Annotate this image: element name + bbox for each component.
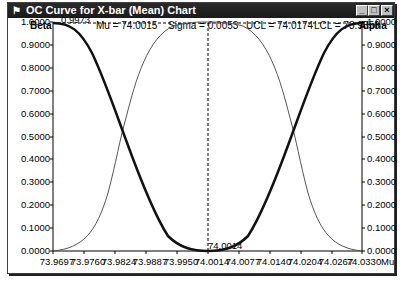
- window-title: OC Curve for X-bar (Mean) Chart: [26, 3, 196, 18]
- maximize-button[interactable]: □: [368, 5, 380, 16]
- chart-area: Beta Mu = 74.0015 Sigma = 0.0053 UCL = 7…: [8, 18, 394, 273]
- minimize-button[interactable]: _: [356, 5, 368, 16]
- oc-plot: [8, 18, 396, 275]
- close-button[interactable]: ×: [381, 5, 393, 16]
- alpha-curve: [53, 22, 362, 251]
- oc-curve-window: ⚑ OC Curve for X-bar (Mean) Chart _ □ × …: [7, 2, 395, 274]
